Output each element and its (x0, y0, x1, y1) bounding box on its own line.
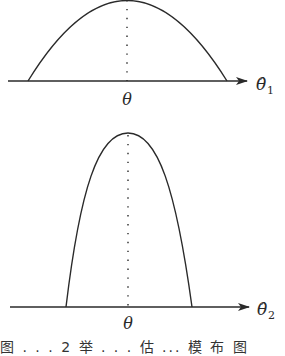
bottom-estimator-label: θ̂ (257, 299, 267, 319)
bottom-center-label: θ (123, 314, 133, 333)
figure-caption: 图 . . . 2 举 . . . 估 ... 模 布 图 (0, 336, 285, 356)
top-distribution-curve (28, 1, 227, 82)
top-estimator-subscript: 1 (267, 84, 274, 97)
bottom-distribution-curve (66, 133, 192, 307)
top-panel: θ θ̂ 1 (8, 0, 274, 109)
top-estimator-label: θ̂ (256, 74, 266, 94)
top-center-label: θ (122, 90, 132, 109)
bottom-panel: θ θ̂ 2 (10, 133, 275, 333)
bottom-estimator-subscript: 2 (268, 309, 275, 322)
